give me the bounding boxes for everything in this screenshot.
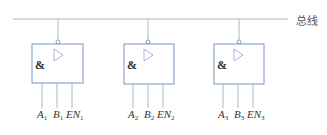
- pin-subscript: 2: [171, 114, 175, 122]
- gate-2-pin-b-label: B2: [144, 108, 154, 122]
- pin-subscript: 3: [241, 114, 245, 122]
- gate-3-and-symbol: &: [217, 58, 227, 73]
- pin-subscript: 1: [60, 114, 64, 122]
- gate-1-and-symbol: &: [35, 58, 45, 73]
- pin-name: B: [53, 108, 60, 120]
- pin-name: B: [144, 108, 151, 120]
- pin-subscript: 3: [261, 114, 265, 122]
- pin-name: EN: [66, 108, 80, 120]
- gate-2-and-symbol: &: [127, 58, 137, 73]
- pin-name: A: [37, 108, 44, 120]
- gate-3-output-bubble-icon: [237, 40, 241, 44]
- pin-subscript: 2: [135, 114, 139, 122]
- gate-1-pin-en-label: EN1: [66, 108, 84, 122]
- gate-1-pin-b-label: B1: [53, 108, 63, 122]
- pin-name: EN: [247, 108, 261, 120]
- pin-subscript: 2: [151, 114, 155, 122]
- pin-subscript: 1: [80, 114, 84, 122]
- pin-subscript: 1: [44, 114, 48, 122]
- gate-3-pin-a-label: A3: [218, 108, 228, 122]
- gate-3-pin-en-label: EN3: [247, 108, 265, 122]
- bus-label: 总线: [296, 12, 318, 28]
- pin-name: A: [128, 108, 135, 120]
- pin-subscript: 3: [225, 114, 229, 122]
- tri-state-bus-diagram: 总线 & & & A1 B1 EN1 A2 B2 EN2 A3 B3 EN3: [0, 0, 327, 135]
- pin-name: EN: [157, 108, 171, 120]
- gate-1-pin-a-label: A1: [37, 108, 47, 122]
- gate-2-pin-en-label: EN2: [157, 108, 175, 122]
- pin-name: B: [234, 108, 241, 120]
- pin-name: A: [218, 108, 225, 120]
- gate-3-pin-b-label: B3: [234, 108, 244, 122]
- gate-2-output-bubble-icon: [146, 40, 150, 44]
- gate-1-output-bubble-icon: [56, 40, 60, 44]
- gate-2-pin-a-label: A2: [128, 108, 138, 122]
